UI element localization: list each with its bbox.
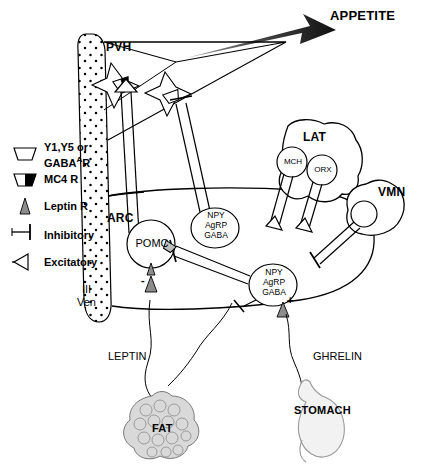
pvh-label: PVH (106, 40, 131, 54)
legend-symbol-leptin-r (20, 198, 30, 214)
leptin-path-1 (145, 300, 152, 398)
legend-label-leptin-r: Leptin R (44, 200, 88, 213)
figure-canvas: APPETITE PVH ARC LAT VMN III Ven POMC NP… (0, 0, 424, 466)
legend-label-y1y5-line1: Y1,Y5 or (44, 141, 88, 154)
legend-label-excitatory: Excitatory (44, 256, 97, 269)
ghrelin-path (286, 314, 302, 398)
leptin-label: LEPTIN (108, 350, 147, 362)
legend-symbol-excitatory (12, 254, 28, 270)
legend-symbol-inhibitory (12, 224, 30, 240)
arc-label: ARC (107, 211, 134, 225)
npy-upper-axon-to-pvh (170, 96, 210, 212)
third-ventricle (78, 34, 111, 322)
appetite-label: APPETITE (330, 8, 395, 23)
leptin-path-2 (168, 303, 232, 386)
ventricle-label-line2: Ven (77, 296, 96, 308)
mch-label: MCH (278, 157, 308, 166)
orx-label: ORX (308, 165, 338, 174)
stomach-organ (298, 380, 344, 462)
lat-label: LAT (303, 130, 326, 144)
pomc-leptin-sign: - (141, 274, 145, 286)
legend-label-inhibitory: Inhibitory (44, 229, 94, 242)
legend-label-y1y5-line2: GABAAR (44, 154, 90, 169)
stomach-label: STOMACH (294, 404, 351, 416)
fat-label: FAT (152, 422, 173, 434)
vmn-neuron (351, 201, 377, 227)
npy-upper-line3: GABA (196, 231, 236, 241)
appetite-arrow (186, 14, 336, 58)
pomc-label: POMC (128, 237, 176, 249)
legend-symbol-mc4r (14, 174, 36, 186)
legend-label-mc4r: MC4 R (44, 173, 78, 186)
vmn-label: VMN (378, 185, 405, 199)
legend-symbol-y1y5-gabaa (14, 148, 36, 160)
ghrelin-label: GHRELIN (313, 350, 362, 362)
ventricle-label-line1: III (82, 283, 91, 295)
legend-gabaa-suffix: R (82, 157, 90, 169)
npy-leptin-sign: + (287, 294, 293, 306)
legend-gabaa-prefix: GABA (44, 157, 76, 169)
